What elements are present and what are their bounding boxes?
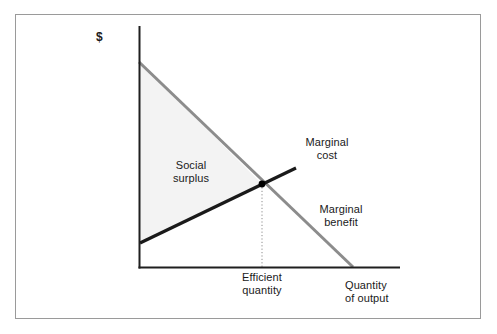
x-axis-label-line2: of output (345, 292, 389, 304)
efficient-quantity-label-line2: quantity (242, 284, 281, 296)
efficient-quantity-label: Efficientquantity (226, 271, 298, 296)
marginal-benefit-label-line2: benefit (324, 216, 358, 228)
marginal-benefit-label-line1: Marginal (320, 203, 363, 215)
y-axis-label-dollar: $ (96, 31, 103, 44)
x-axis-label-line1: Quantity (345, 279, 387, 291)
x-axis-label-quantity-of-output: Quantityof output (345, 279, 421, 304)
social-surplus-label: Socialsurplus (155, 159, 227, 184)
marginal-cost-label-line1: Marginal (306, 136, 349, 148)
social-surplus-label-line2: surplus (173, 172, 209, 184)
equilibrium-point-dot (259, 181, 266, 188)
figure-root: $ Socialsurplus Marginalcost Marginalben… (0, 0, 497, 334)
social-surplus-label-line1: Social (176, 159, 207, 171)
efficient-quantity-label-line1: Efficient (242, 271, 282, 283)
social-surplus-region (139, 62, 262, 243)
marginal-benefit-label: Marginalbenefit (309, 203, 373, 228)
marginal-cost-label-line2: cost (317, 149, 338, 161)
marginal-cost-label: Marginalcost (296, 136, 358, 161)
